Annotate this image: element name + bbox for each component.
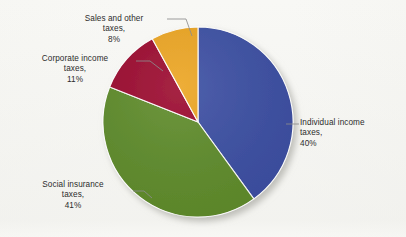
pie-label-value: 8%	[60, 35, 168, 45]
pie-label-value: 41%	[14, 201, 132, 211]
pie-label-individual-income-taxes: Individual income taxes, 40%	[300, 118, 404, 149]
pie-label-sales-and-other-taxes: Sales and other taxes, 8%	[60, 14, 168, 45]
pie-label-value: 40%	[300, 139, 404, 149]
pie-label-social-insurance-taxes: Social insurance taxes, 41%	[14, 180, 132, 211]
pie-label-line-2: taxes,	[300, 128, 404, 138]
pie-label-value: 11%	[14, 75, 136, 85]
pie-label-corporate-income-taxes: Corporate income taxes, 11%	[14, 54, 136, 85]
pie-label-line-1: Sales and other	[60, 14, 168, 24]
pie-label-line-1: Corporate income	[14, 54, 136, 64]
pie-label-line-1: Individual income	[300, 118, 404, 128]
pie-chart: Sales and other taxes, 8% Corporate inco…	[0, 0, 406, 237]
pie-label-line-2: taxes,	[14, 190, 132, 200]
pie-label-line-1: Social insurance	[14, 180, 132, 190]
pie-label-line-2: taxes,	[60, 24, 168, 34]
pie-label-line-2: taxes,	[14, 64, 136, 74]
